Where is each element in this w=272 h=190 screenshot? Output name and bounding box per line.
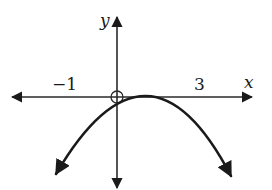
parabola-curve [56, 96, 231, 176]
graph-canvas: y x −1 3 [0, 0, 272, 190]
right-root-label: 3 [194, 74, 205, 94]
left-root-label: −1 [52, 74, 77, 94]
parabola-figure: y x −1 3 [0, 0, 272, 190]
x-axis-label: x [244, 72, 254, 92]
y-axis-label: y [99, 10, 110, 30]
